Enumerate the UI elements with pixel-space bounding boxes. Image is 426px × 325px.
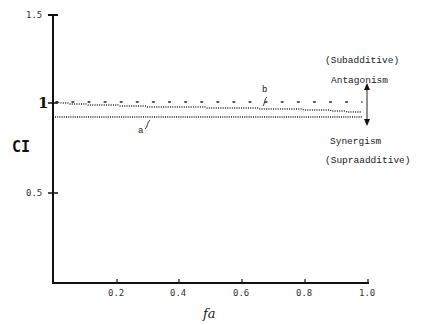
x-tick-label-0.8: 0.8 [296,288,312,298]
y-tick-label-1: 1 [38,94,48,112]
supraadditive-label: (Supraadditive) [325,155,411,166]
subadditive-label: (Subadditive) [325,55,399,66]
curve-label-b: b [262,85,267,95]
ci-chart: 1.5 1 0.5 CI 0.2 0.4 0.6 0.8 1.0 fa a b … [0,0,426,325]
arrow-down-icon [364,119,370,126]
antagonism-label: Antagonism [331,75,388,86]
y-tick-label-1.5: 1.5 [26,10,42,20]
x-tick-label-0.4: 0.4 [170,288,186,298]
series-intermediate [56,102,362,112]
x-axis-label: fa [202,306,216,321]
x-tick-label-1.0: 1.0 [359,288,375,298]
x-tick-label-0.6: 0.6 [233,288,249,298]
curve-label-a: a [138,126,144,136]
curve-a-pointer [145,120,150,129]
synergism-label: Synergism [330,136,382,147]
y-axis-label: CI [12,138,30,156]
y-tick-label-0.5: 0.5 [26,188,42,198]
x-tick-label-0.2: 0.2 [108,288,124,298]
